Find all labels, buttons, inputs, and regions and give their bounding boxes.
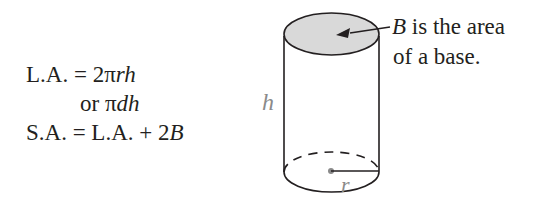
cylinder-diagram: r h B is the area of a base. (0, 0, 557, 199)
height-label: h (262, 89, 274, 115)
var-B: B (392, 14, 406, 39)
callout-line-1: B is the area (392, 14, 505, 39)
bottom-base-visible-edge (284, 172, 379, 192)
radius-label: r (341, 172, 350, 197)
callout-line-2: of a base. (393, 44, 481, 69)
top-base (284, 13, 379, 55)
callout-text: is the area (406, 14, 505, 39)
